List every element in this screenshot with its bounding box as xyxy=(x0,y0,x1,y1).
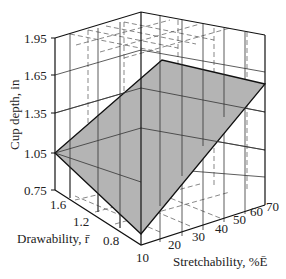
z-tick-label: 0.75 xyxy=(24,184,47,197)
x-tick-label: 70 xyxy=(266,200,279,213)
z-tick-label: 1.95 xyxy=(24,32,47,45)
x-tick-label: 40 xyxy=(215,222,228,235)
y-axis-label: Drawability, r̄ xyxy=(17,232,89,245)
x-tick-label: 50 xyxy=(233,213,246,226)
x-tick-label: 20 xyxy=(168,238,181,251)
z-tick-label: 1.05 xyxy=(24,147,47,160)
z-tick-label: 1.65 xyxy=(24,69,47,82)
y-tick-label: 1.6 xyxy=(50,198,66,211)
chart-3d-plane: 1.95 1.65 1.35 1.05 0.75 Cup depth, in 1… xyxy=(0,0,286,279)
x-tick-label: 60 xyxy=(250,205,263,218)
x-tick-label: 10 xyxy=(136,251,149,264)
y-tick-label: 0.8 xyxy=(103,234,119,247)
z-tick-label: 1.35 xyxy=(24,107,47,120)
z-axis-label: Cup depth, in xyxy=(7,80,23,150)
x-tick-label: 30 xyxy=(192,230,205,243)
x-axis-label: Stretchability, %Ē xyxy=(173,255,267,268)
y-tick-label: 1.2 xyxy=(73,215,89,228)
